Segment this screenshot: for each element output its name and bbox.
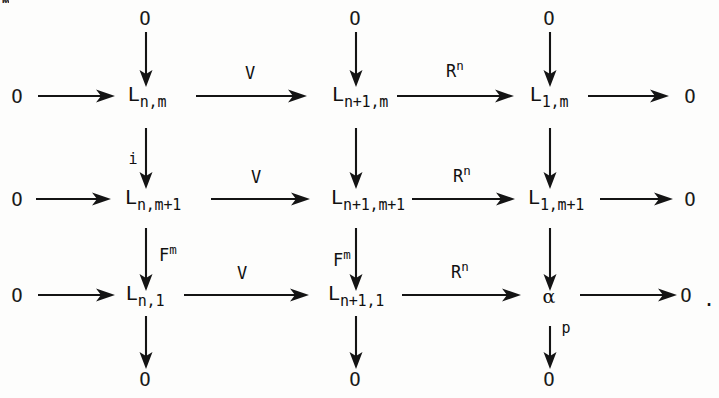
object-r3c2: Ln+1,1 [328, 283, 384, 309]
object-r3c1-base: L [126, 281, 138, 305]
object-r1c2-base: L [332, 82, 344, 106]
zero-right-row3: O [680, 286, 691, 305]
arrow-label-row2-Rn: Rn [453, 165, 471, 185]
zero-left-row2: O [11, 190, 22, 209]
zero-left-row3: O [11, 286, 22, 305]
zero-top-col3: O [543, 9, 554, 28]
object-r1c3: L1,m [530, 84, 569, 110]
arrow-top-col1 [138, 32, 154, 88]
arrow-label-col1-i: i [128, 147, 137, 167]
arrow-col2-row3-to-zero [348, 316, 364, 370]
arrow-label-col2-Fm-base: F [333, 250, 343, 270]
zero-bottom-col1: O [139, 370, 150, 389]
object-r1c1: Ln,m [128, 84, 167, 110]
object-r1c2-subscript: n+1,m [344, 93, 388, 111]
object-r3c3-alpha: α [543, 287, 556, 306]
object-r2c2-subscript: n+1,m+1 [343, 196, 405, 214]
zero-right-row1: O [684, 87, 695, 106]
arrow-label-col3-p: p [561, 316, 570, 336]
arrow-label-col3-p-base: p [561, 319, 570, 337]
trailing-period: . [703, 289, 715, 309]
object-r3c2-subscript: n+1,1 [340, 292, 384, 310]
object-r2c3: L1,m+1 [528, 187, 584, 213]
arrow-col3-row3-to-zero [542, 326, 558, 370]
zero-left-row1: O [11, 87, 22, 106]
object-r2c1: Ln,m+1 [125, 187, 181, 213]
arrow-row1-c2-to-c3 [397, 89, 515, 103]
zero-top-col1: O [139, 9, 150, 28]
object-r2c3-base: L [528, 185, 540, 209]
arrow-label-row2-V: V [251, 166, 261, 186]
object-r3c1: Ln,1 [126, 283, 165, 309]
object-r2c3-subscript: 1,m+1 [540, 196, 584, 214]
zero-top-col2: O [349, 9, 360, 28]
object-r2c1-subscript: n,m+1 [137, 196, 181, 214]
arrow-label-row3-Rn: Rn [451, 261, 469, 281]
arrow-col2-row1-to-row2 [348, 128, 364, 190]
object-r1c3-subscript: 1,m [542, 93, 569, 111]
arrow-row2-c3-to-zero [600, 192, 674, 206]
object-r1c3-base: L [530, 82, 542, 106]
zero-right-row2: O [684, 190, 695, 209]
arrow-row2-c2-to-c3 [412, 192, 516, 206]
diagram-canvas: m O O O O Ln,m [0, 0, 719, 398]
arrow-label-col1-i-base: i [128, 150, 137, 168]
arrow-label-row1-Rn-sup: n [456, 58, 464, 73]
arrow-label-row1-V: V [245, 62, 255, 82]
arrow-label-col2-Fm-sup: m [343, 247, 351, 262]
arrow-col3-row1-to-row2 [542, 128, 558, 190]
arrow-col1-row3-to-zero [138, 316, 154, 370]
arrow-label-row2-V-base: V [251, 167, 261, 187]
object-r1c1-subscript: n,m [140, 93, 167, 111]
object-r1c1-base: L [128, 82, 140, 106]
zero-bottom-col3: O [543, 370, 554, 389]
arrow-label-col1-Fm-base: F [159, 245, 169, 265]
arrow-label-row2-Rn-base: R [453, 166, 463, 186]
arrow-label-row3-V: V [237, 262, 247, 282]
arrow-label-row1-Rn-base: R [446, 61, 456, 81]
arrow-row3-zero-to-c1 [38, 288, 116, 302]
object-r2c2: Ln+1,m+1 [331, 187, 405, 213]
arrow-row1-c1-to-c2 [196, 89, 308, 103]
object-r2c1-base: L [125, 185, 137, 209]
arrow-row1-zero-to-c1 [38, 89, 116, 103]
arrow-col3-row2-to-row3 [542, 228, 558, 292]
arrow-col1-row1-to-row2 [138, 128, 154, 190]
arrow-row3-c1-to-c2 [184, 288, 310, 302]
arrow-label-row1-Rn: Rn [446, 60, 464, 80]
object-r1c2: Ln+1,m [332, 84, 388, 110]
zero-bottom-col2: O [349, 370, 360, 389]
arrow-label-row1-V-base: V [245, 63, 255, 83]
arrow-label-col1-Fm: Fm [159, 244, 177, 264]
arrow-label-col2-Fm: Fm [333, 249, 351, 269]
arrow-row2-c1-to-c2 [211, 192, 311, 206]
arrow-row1-c3-to-zero [588, 89, 670, 103]
object-r2c2-base: L [331, 185, 343, 209]
arrow-label-col1-Fm-sup: m [169, 242, 177, 257]
arrow-label-row3-Rn-sup: n [461, 259, 469, 274]
arrow-row3-c2-to-c3 [402, 288, 522, 302]
object-r3c1-subscript: n,1 [138, 292, 165, 310]
arrow-label-row2-Rn-sup: n [463, 163, 471, 178]
stray-ink-mark: m [2, 0, 9, 3]
arrow-label-row3-Rn-base: R [451, 262, 461, 282]
object-r3c2-base: L [328, 281, 340, 305]
arrow-top-col2 [348, 32, 364, 88]
arrow-row2-zero-to-c1 [36, 192, 112, 206]
arrow-label-row3-V-base: V [237, 263, 247, 283]
arrow-top-col3 [542, 32, 558, 88]
arrow-row3-c3-to-zero [580, 288, 678, 302]
